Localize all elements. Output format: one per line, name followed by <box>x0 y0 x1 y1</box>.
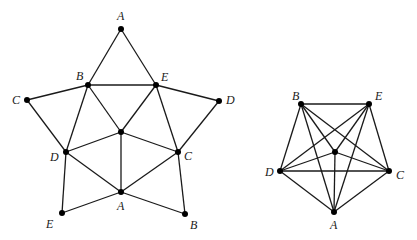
edge-C1-D2 <box>27 100 66 152</box>
edge-A1-B1 <box>88 29 121 85</box>
vertex-label: D <box>49 150 59 164</box>
edge-B-X <box>301 104 335 152</box>
vertex-center <box>118 129 124 135</box>
edge-B1-X1 <box>88 85 121 132</box>
vertex-A <box>118 189 124 195</box>
edges <box>27 29 219 214</box>
edge-E1-C2 <box>156 85 178 152</box>
edge-C-X <box>335 152 389 171</box>
edge-E1-D1 <box>156 85 219 101</box>
vertex-label: A <box>329 218 338 232</box>
vertex-label: A <box>116 199 125 213</box>
vertex-A <box>118 26 124 32</box>
vertex-label: B <box>292 89 300 103</box>
edge-A-X <box>334 152 335 212</box>
edge-D2-X1 <box>66 132 121 152</box>
vertex-C <box>386 168 392 174</box>
edge-B1-D2 <box>66 85 88 152</box>
vertex-label: C <box>184 149 193 163</box>
edge-A1-E1 <box>121 29 156 85</box>
vertex-label: C <box>12 93 21 107</box>
vertex-E <box>366 101 372 107</box>
vertex-label: E <box>45 217 54 231</box>
vertex-center <box>332 149 338 155</box>
vertex-B <box>85 82 91 88</box>
edge-E-D <box>280 104 369 171</box>
edges <box>280 104 389 212</box>
edge-D-A <box>280 171 334 212</box>
edge-E-C <box>369 104 389 171</box>
edge-D-X <box>280 152 335 171</box>
vertex-label: E <box>160 70 169 84</box>
vertex-label: E <box>374 89 383 103</box>
vertex-C <box>24 97 30 103</box>
vertex-label: A <box>116 9 125 23</box>
graph-diagram: ABECDDCAEB BEDCA <box>0 0 417 240</box>
edge-C-A <box>334 171 389 212</box>
vertex-A <box>331 209 337 215</box>
vertex-D <box>277 168 283 174</box>
vertex-label: D <box>264 165 274 179</box>
edge-D2-A2 <box>66 152 121 192</box>
vertex-B <box>182 211 188 217</box>
vertex-E <box>59 210 65 216</box>
edge-C2-A2 <box>121 152 178 192</box>
edge-D1-C2 <box>178 101 219 152</box>
vertex-D <box>216 98 222 104</box>
edge-C2-X1 <box>121 132 178 152</box>
edge-E2-A2 <box>62 192 121 213</box>
edge-E-X <box>335 104 369 152</box>
edge-E1-X1 <box>121 85 156 132</box>
vertex-label: D <box>225 93 235 107</box>
left-graph: ABECDDCAEB <box>12 9 235 232</box>
vertex-label: B <box>190 218 198 232</box>
edge-B-D <box>280 104 301 171</box>
vertex-E <box>153 82 159 88</box>
right-graph: BEDCA <box>264 89 405 232</box>
vertex-label: B <box>76 69 84 83</box>
vertex-D <box>63 149 69 155</box>
edge-B1-C1 <box>27 85 88 100</box>
edge-A2-B2 <box>121 192 185 214</box>
edge-D2-E2 <box>62 152 66 213</box>
vertex-label: C <box>396 168 405 182</box>
vertex-C <box>175 149 181 155</box>
